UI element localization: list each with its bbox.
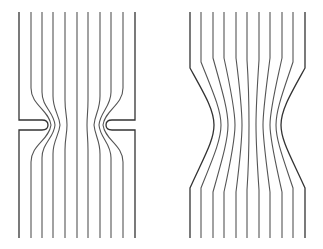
- nozzle-left-wall: [190, 12, 214, 238]
- nozzle-streamline: [247, 12, 249, 238]
- orifice-right-wall: [106, 12, 135, 238]
- nozzle-streamline: [201, 12, 221, 238]
- flow-diagram: [0, 0, 323, 249]
- nozzle-panel: [190, 12, 305, 238]
- nozzle-streamline: [263, 12, 270, 238]
- orifice-panel: [19, 12, 135, 238]
- nozzle-streamline: [236, 12, 242, 238]
- orifice-streamline: [53, 12, 60, 238]
- nozzle-streamline: [256, 12, 259, 238]
- orifice-streamline: [87, 12, 88, 238]
- orifice-streamline: [99, 12, 111, 238]
- orifice-left-wall: [19, 12, 48, 238]
- nozzle-streamline: [276, 12, 293, 238]
- orifice-streamline: [65, 12, 67, 238]
- nozzle-streamline: [224, 12, 235, 238]
